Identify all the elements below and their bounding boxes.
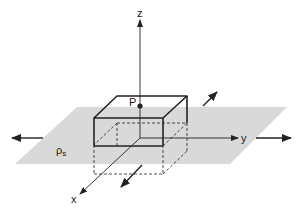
gauss-pillbox-diagram: z y x P ρs	[0, 0, 304, 219]
y-axis-label: y	[241, 132, 247, 144]
point-p-label: P	[129, 96, 136, 108]
rho-subscript: s	[62, 149, 66, 158]
z-axis-label: z	[137, 7, 143, 19]
arrow-back	[203, 92, 217, 106]
arrow-front	[121, 165, 142, 187]
point-p	[137, 103, 142, 108]
x-axis-label: x	[71, 193, 77, 205]
